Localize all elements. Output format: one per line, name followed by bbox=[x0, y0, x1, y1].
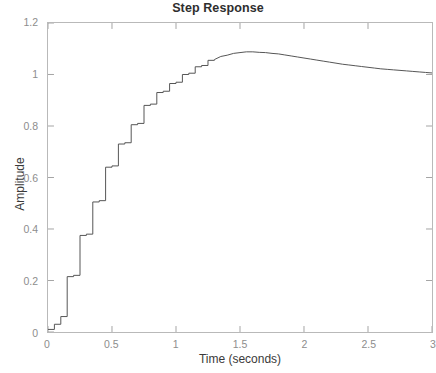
xtick-label-2: 2 bbox=[301, 338, 307, 350]
ytick-label-0.8: 0.8 bbox=[5, 120, 38, 132]
chart-title: Step Response bbox=[0, 1, 436, 15]
ytick-label-0.2: 0.2 bbox=[5, 275, 38, 287]
y-axis-label: Amplitude bbox=[13, 134, 27, 234]
x-axis-label: Time (seconds) bbox=[47, 352, 433, 366]
xtick-label-1.5: 1.5 bbox=[233, 338, 248, 350]
plot-svg bbox=[48, 23, 432, 332]
ytick-label-0: 0 bbox=[5, 327, 38, 339]
xtick-label-3: 3 bbox=[430, 338, 436, 350]
ytick-label-1: 1 bbox=[5, 68, 38, 80]
step-response-curve bbox=[48, 52, 432, 330]
xtick-label-0: 0 bbox=[44, 338, 50, 350]
plot-area bbox=[47, 22, 433, 333]
xtick-label-1: 1 bbox=[173, 338, 179, 350]
chart-figure: Step Response bbox=[0, 0, 436, 373]
ytick-label-1.2: 1.2 bbox=[5, 16, 38, 28]
xtick-label-0.5: 0.5 bbox=[104, 338, 119, 350]
xtick-label-2.5: 2.5 bbox=[361, 338, 376, 350]
